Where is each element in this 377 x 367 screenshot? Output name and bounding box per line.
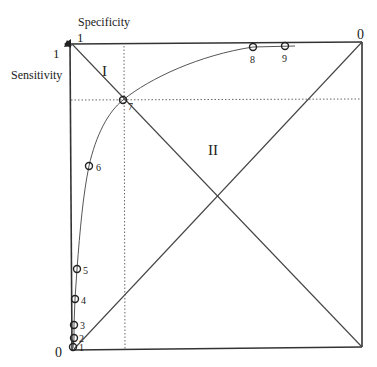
roc-points (70, 43, 289, 351)
point-8-label: 8 (250, 54, 255, 65)
diagonal-descending (72, 44, 362, 347)
roc-diagram: 1 2 3 4 5 6 7 8 9 Specificity Sensitivit… (0, 0, 377, 367)
point-9-label: 9 (282, 53, 287, 64)
region-two-label: II (208, 142, 218, 158)
diagonal-chance (74, 42, 362, 349)
left-axis-line (70, 44, 72, 350)
sensitivity-label: Sensitivity (11, 68, 62, 82)
point-4-label: 4 (81, 295, 86, 306)
point-2-label: 2 (79, 333, 84, 344)
sensitivity-one-label: 1 (53, 46, 60, 61)
top-axis-line (70, 42, 362, 44)
bottom-left-zero-label: 0 (55, 345, 62, 360)
bottom-edge-line (72, 347, 362, 350)
dotted-vertical-line (124, 46, 125, 349)
top-right-zero-label: 0 (357, 27, 364, 42)
specificity-label: Specificity (78, 15, 130, 29)
specificity-one-label: 1 (77, 30, 84, 45)
dotted-horizontal-line (71, 99, 362, 100)
point-3-label: 3 (80, 320, 85, 331)
point-7-label: 7 (128, 101, 133, 112)
roc-curve (73, 46, 295, 348)
point-5-label: 5 (83, 265, 88, 276)
point-6-label: 6 (96, 162, 101, 173)
region-one-label: I (102, 63, 107, 79)
